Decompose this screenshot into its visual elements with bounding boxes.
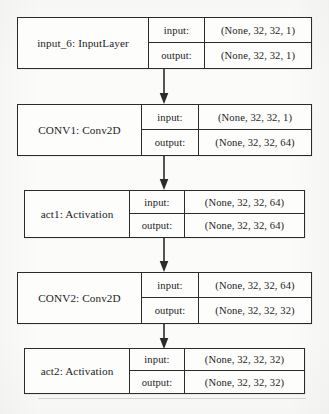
layer-name: CONV1: Conv2D	[18, 105, 141, 155]
io-row-input: input: (None, 32, 32, 1)	[149, 18, 311, 43]
layer-name: act1: Activation	[25, 191, 129, 237]
input-shape-value: (None, 32, 32, 32)	[185, 349, 304, 370]
output-label: output:	[142, 130, 199, 155]
io-shape-table: input: (None, 32, 32, 1) output: (None, …	[141, 105, 311, 155]
io-row-input: input: (None, 32, 32, 64)	[142, 273, 311, 298]
edge-input_6-to-conv1	[158, 69, 170, 104]
io-row-input: input: (None, 32, 32, 64)	[130, 191, 304, 214]
input-shape-value: (None, 32, 32, 64)	[185, 191, 304, 213]
layer-node-act1[interactable]: act1: Activation input: (None, 32, 32, 6…	[24, 190, 305, 238]
layer-node-input_6[interactable]: input_6: InputLayer input: (None, 32, 32…	[17, 17, 312, 69]
layer-name: CONV2: Conv2D	[18, 273, 141, 323]
output-shape-value: (None, 32, 32, 64)	[185, 214, 304, 237]
io-row-output: output: (None, 32, 32, 1)	[149, 43, 311, 68]
io-row-output: output: (None, 32, 32, 64)	[130, 214, 304, 237]
io-shape-table: input: (None, 32, 32, 1) output: (None, …	[148, 18, 311, 68]
output-shape-value: (None, 32, 32, 32)	[199, 298, 311, 323]
output-label: output:	[130, 214, 185, 237]
output-shape-value: (None, 32, 32, 32)	[185, 371, 304, 393]
input-label: input:	[130, 191, 185, 213]
layer-name: act2: Activation	[25, 349, 129, 393]
input-shape-value: (None, 32, 32, 1)	[199, 105, 311, 129]
io-row-output: output: (None, 32, 32, 32)	[142, 298, 311, 323]
input-shape-value: (None, 32, 32, 1)	[205, 18, 311, 42]
io-shape-table: input: (None, 32, 32, 64) output: (None,…	[129, 191, 304, 237]
layer-node-act2[interactable]: act2: Activation input: (None, 32, 32, 3…	[24, 348, 305, 394]
input-shape-value: (None, 32, 32, 64)	[199, 273, 311, 297]
model-architecture-diagram: input_6: InputLayer input: (None, 32, 32…	[0, 0, 329, 414]
input-label: input:	[130, 349, 185, 370]
io-row-output: output: (None, 32, 32, 64)	[142, 130, 311, 155]
layer-name: input_6: InputLayer	[18, 18, 148, 68]
io-row-input: input: (None, 32, 32, 1)	[142, 105, 311, 130]
output-label: output:	[149, 43, 205, 68]
output-label: output:	[142, 298, 199, 323]
output-label: output:	[130, 371, 185, 393]
edge-act1-to-conv2	[158, 238, 170, 272]
input-label: input:	[142, 273, 199, 297]
layer-node-conv1[interactable]: CONV1: Conv2D input: (None, 32, 32, 1) o…	[17, 104, 312, 156]
input-label: input:	[149, 18, 205, 42]
io-shape-table: input: (None, 32, 32, 32) output: (None,…	[129, 349, 304, 393]
io-shape-table: input: (None, 32, 32, 64) output: (None,…	[141, 273, 311, 323]
input-label: input:	[142, 105, 199, 129]
output-shape-value: (None, 32, 32, 1)	[205, 43, 311, 68]
io-row-output: output: (None, 32, 32, 32)	[130, 371, 304, 393]
output-shape-value: (None, 32, 32, 64)	[199, 130, 311, 155]
io-row-input: input: (None, 32, 32, 32)	[130, 349, 304, 371]
layer-node-conv2[interactable]: CONV2: Conv2D input: (None, 32, 32, 64) …	[17, 272, 312, 324]
edge-conv1-to-act1	[158, 156, 170, 190]
edge-conv2-to-act2	[158, 324, 170, 349]
